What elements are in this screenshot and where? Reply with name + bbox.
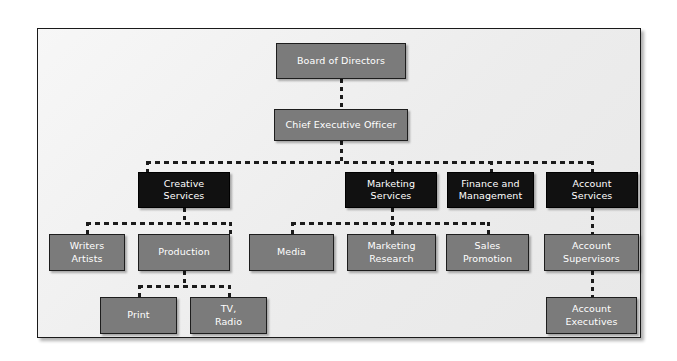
- node-label-line1: Writers: [70, 240, 105, 253]
- connector-bus-to-media: [291, 222, 294, 234]
- node-sales-promotion[interactable]: Sales Promotion: [446, 234, 529, 271]
- node-label-line2: Executives: [565, 316, 617, 329]
- node-writers-artists[interactable]: Writers Artists: [49, 234, 125, 271]
- node-label-line1: Production: [158, 246, 210, 259]
- node-label-line1: Print: [127, 309, 149, 322]
- node-print[interactable]: Print: [100, 297, 177, 334]
- node-board-of-directors[interactable]: Board of Directors: [276, 43, 406, 79]
- connector-bus-to-writers-artists: [86, 222, 89, 234]
- node-media[interactable]: Media: [249, 234, 334, 271]
- node-account-services[interactable]: Account Services: [546, 172, 638, 208]
- node-label-line1: Account: [572, 303, 611, 316]
- node-chief-executive-officer[interactable]: Chief Executive Officer: [274, 109, 408, 141]
- org-chart-panel: Board of Directors Chief Executive Offic…: [37, 28, 641, 338]
- node-label-line2: Supervisors: [563, 253, 620, 266]
- node-label-line1: Sales: [475, 240, 501, 253]
- connector-bus-to-sales-promotion: [487, 222, 490, 234]
- node-label-line1: Media: [277, 246, 306, 259]
- node-creative-services[interactable]: Creative Services: [138, 172, 230, 208]
- node-label-line1: Finance and: [461, 178, 519, 191]
- node-label-line1: Marketing: [367, 240, 415, 253]
- connector-bus-to-tv-radio: [228, 285, 231, 297]
- node-label-line1: Account: [572, 240, 611, 253]
- node-label-line1: Chief Executive Officer: [286, 119, 397, 132]
- node-label-line1: Creative: [164, 178, 205, 191]
- node-label-line2: Artists: [71, 253, 102, 266]
- node-label-line2: Radio: [215, 316, 242, 329]
- org-chart-canvas: Board of Directors Chief Executive Offic…: [38, 29, 640, 337]
- node-label-line2: Services: [572, 190, 613, 203]
- node-tv-radio[interactable]: TV, Radio: [190, 297, 267, 334]
- connector-supervisors-to-executives: [591, 271, 594, 297]
- connector-bus-to-marketing-research: [391, 222, 394, 234]
- node-marketing-services[interactable]: Marketing Services: [345, 172, 437, 208]
- connector-ceo-down: [340, 141, 343, 163]
- node-production[interactable]: Production: [138, 234, 230, 271]
- connector-bus-to-production: [229, 222, 232, 234]
- node-label-line1: Account: [572, 178, 611, 191]
- node-label-line2: Management: [459, 190, 523, 203]
- node-finance-and-management[interactable]: Finance and Management: [447, 172, 534, 208]
- node-label-line2: Services: [371, 190, 412, 203]
- node-account-executives[interactable]: Account Executives: [546, 297, 637, 334]
- node-label-line1: Board of Directors: [297, 55, 385, 68]
- connector-account-services-to-supervisors: [591, 208, 594, 234]
- node-label-line2: Research: [369, 253, 413, 266]
- connector-creative-services-bus: [86, 222, 232, 225]
- node-label-line2: Promotion: [463, 253, 512, 266]
- node-marketing-research[interactable]: Marketing Research: [347, 234, 436, 271]
- connector-bus-to-print: [138, 285, 141, 297]
- connector-production-bus: [138, 285, 231, 288]
- node-account-supervisors[interactable]: Account Supervisors: [544, 234, 639, 271]
- node-label-line1: TV,: [221, 303, 237, 316]
- node-label-line1: Marketing: [367, 178, 415, 191]
- connector-level3-bus: [146, 161, 594, 164]
- connector-board-to-ceo: [340, 79, 343, 109]
- node-label-line2: Services: [164, 190, 205, 203]
